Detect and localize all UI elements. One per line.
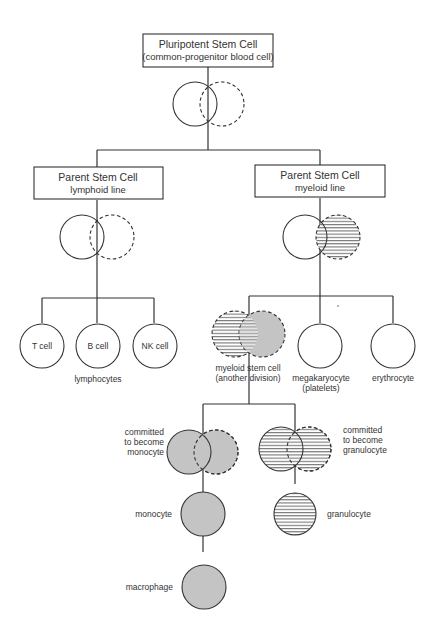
granulocyte-icon [274, 493, 316, 535]
megakaryocyte-sublabel: (platelets) [302, 383, 339, 393]
committed-granulocyte-label-1: committed [343, 425, 382, 435]
nk-cell-icon: NK cell [133, 324, 177, 368]
box-subtitle: myeloid line [295, 182, 345, 193]
box-title: Parent Stem Cell [280, 169, 359, 181]
myeloid-dividing-cell-icon [283, 215, 360, 259]
b-cell-icon: B cell [76, 324, 120, 368]
macrophage-icon [182, 565, 226, 609]
box-pluripotent-stem-cell: Pluripotent Stem Cell (common-progenitor… [142, 34, 273, 67]
monocyte-icon [181, 492, 225, 536]
box-subtitle: (common-progenitor blood cell) [142, 51, 273, 62]
nk-cell-label: NK cell [142, 341, 169, 351]
monocyte-label: monocyte [135, 509, 172, 519]
erythrocyte-label: erythrocyte [372, 373, 414, 383]
committed-monocyte-label-3: monocyte [127, 447, 164, 457]
myeloid-stem-cell-sublabel: (another division) [215, 373, 280, 383]
b-cell-label: B cell [88, 341, 109, 351]
myeloid-stem-cell-label: myeloid stem cell [215, 363, 280, 373]
box-title: Parent Stem Cell [58, 171, 137, 183]
connector-lines [42, 67, 393, 552]
box-myeloid-parent-stem-cell: Parent Stem Cell myeloid line [255, 165, 385, 197]
print-speck [337, 305, 339, 307]
committed-granulocyte-cell-icon [259, 427, 331, 471]
box-subtitle: lymphoid line [70, 184, 125, 195]
megakaryocyte-icon [298, 324, 342, 368]
committed-granulocyte-label-3: granulocyte [343, 445, 387, 455]
committed-monocyte-label-2: to become [124, 437, 164, 447]
erythrocyte-icon [371, 324, 415, 368]
lymphocytes-group-label: lymphocytes [74, 374, 121, 384]
committed-monocyte-label-1: committed [125, 427, 164, 437]
myeloid-stem-cell-icon [212, 311, 285, 357]
cell-lineage-diagram: Pluripotent Stem Cell (common-progenitor… [0, 0, 436, 635]
box-title: Pluripotent Stem Cell [159, 38, 258, 50]
macrophage-label: macrophage [126, 582, 174, 592]
t-cell-label: T cell [32, 341, 52, 351]
granulocyte-label: granulocyte [327, 509, 371, 519]
t-cell-icon: T cell [20, 324, 64, 368]
committed-monocyte-cell-icon [167, 430, 238, 474]
box-lymphoid-parent-stem-cell: Parent Stem Cell lymphoid line [34, 167, 163, 199]
committed-granulocyte-label-2: to become [343, 435, 383, 445]
megakaryocyte-label: megakaryocyte [292, 373, 350, 383]
